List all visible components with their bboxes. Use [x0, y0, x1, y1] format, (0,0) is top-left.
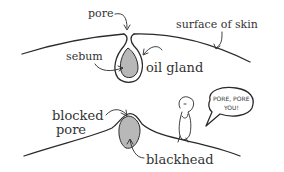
label-oil-gland: oil gland [146, 60, 203, 75]
sebum-blob [120, 48, 138, 78]
label-pore-2: pore [56, 122, 86, 137]
speech-line-2: YOU! [223, 104, 239, 111]
blackhead-blob [119, 116, 140, 148]
top-panel: pore surface of skin sebum oil gland [22, 7, 258, 82]
cartoon-character [178, 97, 194, 142]
pore-diagram: pore surface of skin sebum oil gland POR… [0, 0, 284, 172]
sebum-arrow [95, 64, 123, 71]
bottom-panel: PORE, PORE YOU! blocked pore blackhead [24, 88, 253, 168]
label-surface-of-skin: surface of skin [176, 18, 258, 31]
oil-gland-arrow [143, 47, 162, 55]
label-sebum: sebum [66, 50, 103, 63]
label-blocked: blocked [52, 108, 103, 123]
surface-arrow [214, 32, 222, 49]
label-pore: pore [88, 7, 113, 20]
label-blackhead: blackhead [146, 152, 214, 167]
speech-bubble: PORE, PORE YOU! [206, 88, 253, 127]
pore-arrow [115, 14, 130, 30]
speech-line-1: PORE, PORE [213, 95, 250, 102]
blocked-pore-arrow [106, 110, 127, 116]
